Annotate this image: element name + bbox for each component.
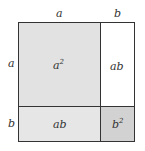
a-squared-label: a2 (53, 59, 64, 71)
top-label-b: b (114, 8, 121, 19)
region-a-squared: a2 (19, 23, 101, 107)
side-label-a: a (8, 58, 15, 69)
outer-square: a2 ab ab b2 (18, 22, 135, 142)
bottom-left-ab-label: ab (53, 119, 67, 130)
region-b-squared: b2 (101, 107, 134, 141)
top-label-a: a (56, 8, 63, 19)
top-right-ab-label: ab (110, 61, 124, 72)
side-label-b: b (8, 118, 15, 129)
region-bottom-left-ab: ab (19, 107, 101, 141)
b-squared-label: b2 (112, 118, 124, 130)
region-top-right-ab: ab (101, 23, 134, 107)
